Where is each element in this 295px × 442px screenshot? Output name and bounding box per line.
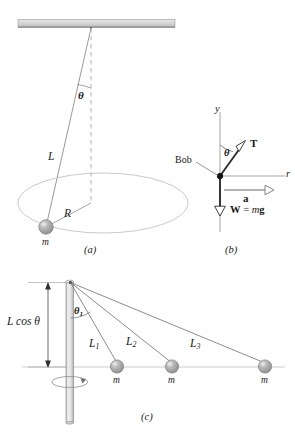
panel-c-height-label: L cos θ (7, 316, 40, 328)
panel-a-caption: (a) (84, 244, 96, 255)
mass-ball-3 (258, 360, 271, 373)
panel-b-tension-label: T (250, 138, 257, 149)
panel-b-r-axis-label: r (286, 169, 290, 180)
bob-leader-line (196, 162, 218, 176)
angle-theta-arc-a (77, 85, 91, 89)
panel-b-angle-label: θ (224, 148, 229, 159)
panel-b-caption: (b) (225, 244, 237, 255)
pendulum-string (46, 28, 91, 227)
panel-a-angle-label: θ (78, 90, 84, 101)
panel-c-angle-subscript: 1 (79, 310, 83, 318)
panel-c-mass3-label: m (261, 376, 268, 386)
panel-c-height-text: L cos θ (7, 315, 40, 327)
mass-ball-1 (110, 360, 123, 373)
string-L2 (71, 283, 173, 364)
panel-c-caption: (c) (141, 411, 153, 422)
panel-b-acceleration-label: a (243, 193, 249, 204)
pendulum-bob-ball (39, 220, 53, 234)
ceiling-bar (18, 20, 175, 28)
panel-b-weight-equals: = (241, 204, 252, 215)
bob-point (217, 173, 223, 179)
rotating-rod (66, 280, 74, 424)
panel-a-mass-label: m (42, 238, 49, 248)
panel-c-string1-label: L1 (89, 338, 99, 351)
panel-c-string2-subscript: 2 (132, 340, 136, 349)
panel-b-weight-g: g (259, 204, 264, 215)
string-L3 (71, 283, 266, 364)
panel-b-weight-label: W = mg (230, 205, 265, 216)
weight-vector (215, 176, 226, 216)
acceleration-vector (224, 185, 274, 195)
panel-c-string3-label: L3 (190, 338, 200, 351)
panel-c-graphics (22, 280, 285, 424)
figure-canvas (0, 0, 295, 442)
panel-c-mass2-label: m (168, 376, 175, 386)
physics-figure: θ L R m (a) y r θ T Bob a W = mg (b) L c… (0, 0, 295, 442)
panel-c-mass1-label: m (113, 376, 120, 386)
panel-c-string2-label: L2 (126, 336, 136, 349)
panel-b-bob-label: Bob (175, 155, 192, 165)
panel-a-graphics (18, 20, 188, 235)
panel-a-length-label: L (48, 151, 54, 163)
panel-a-radius-label: R (64, 208, 71, 220)
panel-c-string3-subscript: 3 (196, 342, 200, 351)
panel-c-string1-subscript: 1 (95, 342, 99, 351)
panel-b-y-axis-label: y (215, 104, 220, 115)
panel-c-angle-label: θ1 (74, 306, 83, 318)
mass-ball-2 (165, 360, 178, 373)
